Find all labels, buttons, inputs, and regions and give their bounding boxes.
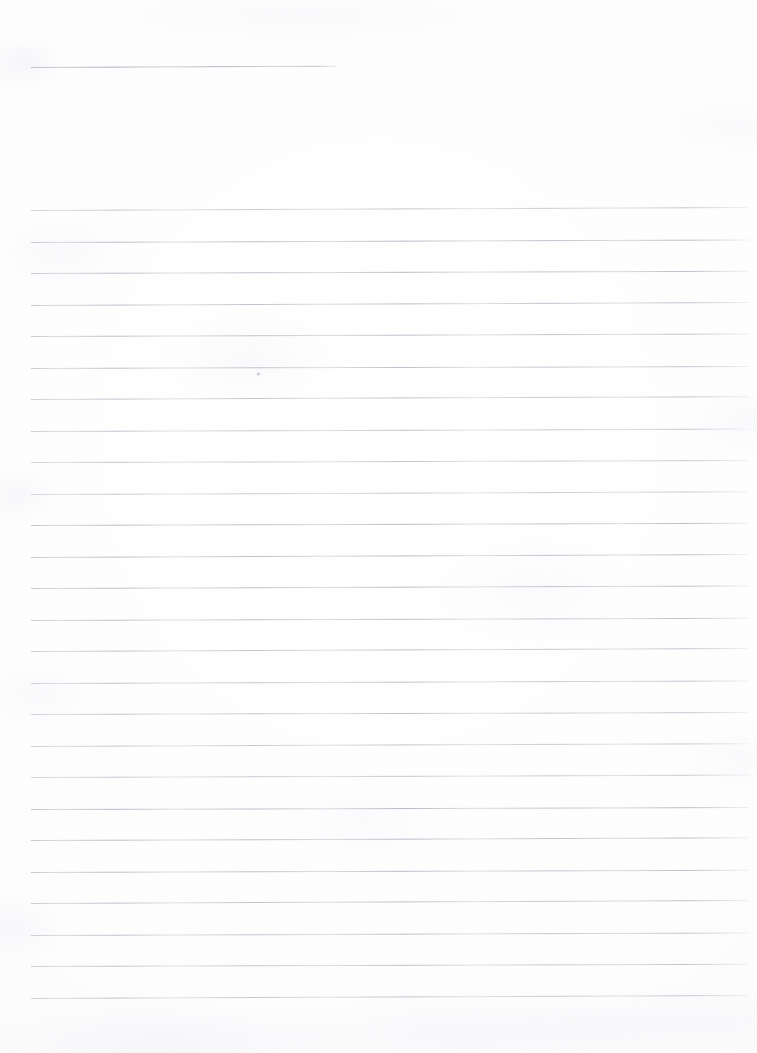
- paper-background: [0, 0, 757, 1053]
- scanned-page: [0, 0, 757, 1053]
